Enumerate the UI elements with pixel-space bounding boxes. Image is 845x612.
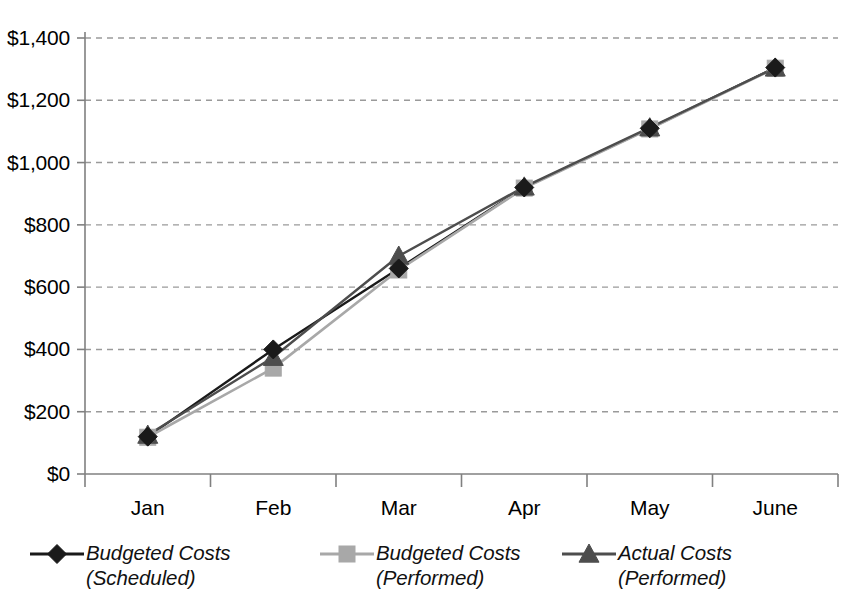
y-axis-tick-label: $1,000 — [0, 151, 70, 175]
x-axis-tick-label: May — [630, 496, 670, 520]
series-lines-group — [148, 68, 776, 438]
data-point-marker — [264, 340, 283, 359]
series-line — [148, 68, 776, 437]
y-axis-tick-label: $1,400 — [0, 26, 70, 50]
legend-item-label: Budgeted Costs (Scheduled) — [86, 540, 230, 590]
x-axis-tick-label: June — [752, 496, 798, 520]
legend-item-label: Budgeted Costs (Performed) — [376, 540, 520, 590]
plot-area: $1,400$1,200$1,000$800$600$400$200$0 Jan… — [0, 0, 845, 612]
gridlines-group — [85, 38, 838, 412]
x-axis-tick-label: Apr — [508, 496, 541, 520]
y-axis-tick-label: $0 — [0, 462, 70, 486]
series-line — [148, 68, 776, 435]
y-axis-tick-label: $200 — [0, 400, 70, 424]
legend-item[interactable]: Budgeted Costs (Scheduled) — [28, 540, 230, 590]
square-marker-icon — [318, 541, 376, 567]
chart-container: $1,400$1,200$1,000$800$600$400$200$0 Jan… — [0, 0, 845, 612]
y-axis-tick-label: $600 — [0, 275, 70, 299]
x-axis-tick-label: Jan — [131, 496, 165, 520]
x-tick-marks-group — [85, 474, 838, 487]
chart-legend: Budgeted Costs (Scheduled)Budgeted Costs… — [0, 536, 845, 612]
x-axis-tick-label: Feb — [255, 496, 291, 520]
chart-svg — [0, 0, 845, 612]
legend-item-label: Actual Costs (Performed) — [618, 540, 732, 590]
y-axis-tick-label: $1,200 — [0, 88, 70, 112]
axis-lines-group — [85, 32, 838, 474]
series-line — [148, 68, 776, 437]
x-axis-tick-label: Mar — [381, 496, 417, 520]
diamond-marker-icon — [28, 541, 86, 567]
y-tick-marks-group — [77, 38, 85, 474]
y-axis-tick-label: $800 — [0, 213, 70, 237]
legend-item[interactable]: Budgeted Costs (Performed) — [318, 540, 520, 590]
legend-item[interactable]: Actual Costs (Performed) — [560, 540, 732, 590]
y-axis-tick-label: $400 — [0, 337, 70, 361]
triangle-marker-icon — [560, 541, 618, 567]
